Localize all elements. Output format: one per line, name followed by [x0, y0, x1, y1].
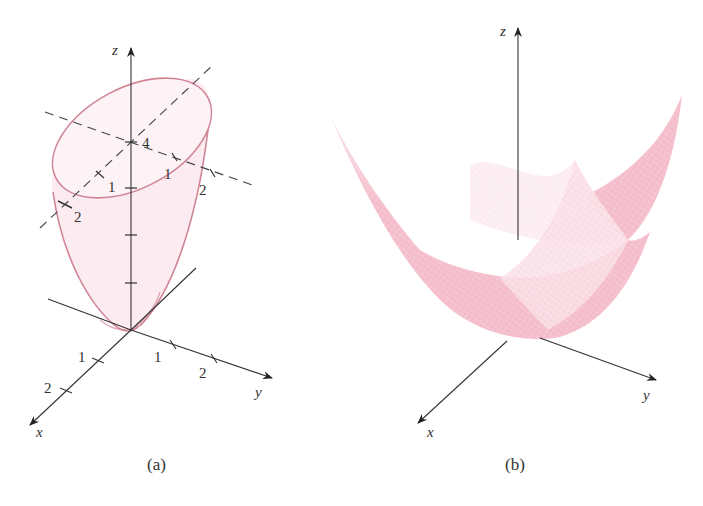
caption-b: (b)	[505, 455, 525, 474]
figure-canvas: z y x 4 1 2 1 2 1 2 1 2 (a) z y x (b)	[0, 0, 703, 506]
tick-label-plane-y-2: 2	[199, 182, 207, 198]
tick-label-plane-y-1: 1	[164, 166, 172, 182]
x-axis-a	[30, 330, 131, 425]
x-tick-2	[60, 388, 72, 393]
caption-a: (a)	[147, 455, 166, 474]
tick-label-plane-x-2: 2	[74, 209, 82, 225]
x-axis-label-b: x	[426, 424, 434, 440]
y-axis-label-b: y	[641, 387, 650, 403]
y-axis-label-a: y	[253, 384, 262, 400]
panel-a: z y x 4 1 2 1 2 1 2 1 2 (a)	[30, 42, 272, 474]
tick-label-y-2: 2	[199, 365, 207, 381]
x-axis-label-a: x	[35, 424, 43, 440]
x-tick-1	[92, 358, 104, 363]
panel-b: z y x (b)	[330, 23, 682, 474]
plane-y-tick-2	[210, 169, 215, 177]
tick-label-z-4: 4	[142, 135, 150, 151]
tick-label-x-1: 1	[78, 349, 86, 365]
tick-label-y-1: 1	[154, 349, 162, 365]
tick-label-plane-x-1: 1	[108, 179, 116, 195]
z-axis-label-b: z	[499, 23, 506, 39]
y-axis-b	[540, 338, 656, 380]
x-axis-b	[418, 341, 507, 423]
tick-label-x-2: 2	[44, 380, 52, 396]
z-axis-label-a: z	[111, 42, 118, 58]
